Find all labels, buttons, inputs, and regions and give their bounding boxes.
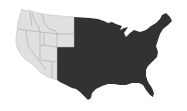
us-map (0, 0, 187, 111)
us-map-svg (0, 0, 187, 111)
